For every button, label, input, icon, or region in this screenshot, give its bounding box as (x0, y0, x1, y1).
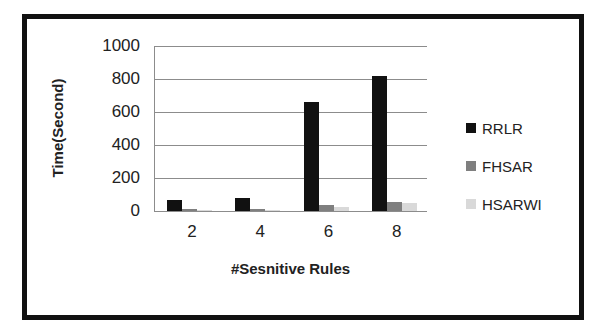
bar-rrlr-2 (167, 200, 182, 211)
gridline (154, 46, 427, 47)
bar-rrlr-8 (372, 76, 387, 211)
bar-fhsar-2 (182, 209, 197, 211)
bar-fhsar-6 (319, 205, 334, 211)
y-tick-label: 800 (90, 70, 140, 88)
legend-label: FHSAR (482, 158, 533, 175)
y-tick-label: 600 (90, 103, 140, 121)
legend-item-hsarwi: HSARWI (466, 194, 542, 214)
legend-item-rrlr: RRLR (466, 118, 542, 138)
bar-hsarwi-6 (334, 207, 349, 211)
y-axis-line (154, 46, 155, 211)
y-tick-label: 0 (90, 202, 140, 220)
y-tick-label: 1000 (90, 37, 140, 55)
legend-swatch-icon (466, 199, 476, 209)
bar-fhsar-4 (250, 209, 265, 211)
legend-swatch-icon (466, 123, 476, 133)
bar-fhsar-8 (387, 202, 402, 211)
bar-hsarwi-8 (402, 203, 417, 211)
y-tick-label: 400 (90, 136, 140, 154)
bar-hsarwi-2 (197, 210, 212, 211)
bar-rrlr-4 (235, 198, 250, 211)
x-tick-label: 4 (226, 222, 294, 242)
legend-swatch-icon (466, 161, 476, 171)
x-tick-label: 8 (363, 222, 431, 242)
y-tick-label: 200 (90, 169, 140, 187)
y-axis-label: Time(Second) (49, 79, 66, 178)
x-axis-label: #Sesnitive Rules (154, 260, 427, 277)
x-tick-label: 2 (158, 222, 226, 242)
x-tick-label: 6 (295, 222, 363, 242)
legend: RRLRFHSARHSARWI (466, 118, 542, 232)
gridline (154, 211, 427, 212)
legend-label: RRLR (482, 120, 523, 137)
legend-label: HSARWI (482, 196, 542, 213)
bar-hsarwi-4 (265, 210, 280, 211)
legend-item-fhsar: FHSAR (466, 156, 542, 176)
bar-rrlr-6 (304, 102, 319, 211)
